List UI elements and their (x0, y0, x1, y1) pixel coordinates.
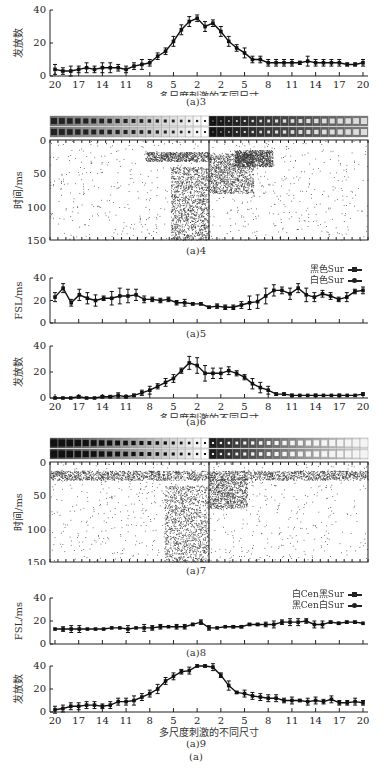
svg-text:40: 40 (33, 272, 46, 283)
svg-text:2: 2 (218, 401, 224, 412)
raster-a7-caption: (a)7 (0, 565, 392, 576)
svg-text:5: 5 (241, 79, 247, 90)
svg-text:20: 20 (33, 295, 46, 306)
svg-text:11: 11 (120, 79, 133, 90)
svg-text:20: 20 (49, 401, 62, 412)
svg-text:40: 40 (33, 592, 46, 603)
svg-text:8: 8 (265, 401, 271, 412)
svg-text:0: 0 (40, 317, 46, 328)
svg-text:14: 14 (96, 715, 109, 726)
legend-circle-marker-icon (348, 605, 362, 607)
svg-text:150: 150 (27, 235, 46, 245)
svg-text:20: 20 (33, 37, 46, 48)
svg-text:0: 0 (40, 70, 46, 81)
chart-a6-svg: 02040发放数2017141185225811141720多尺度刺激的不同尺寸 (0, 340, 392, 418)
svg-text:100: 100 (27, 202, 46, 213)
svg-text:40: 40 (33, 340, 46, 351)
chart-a5-legend: 黑色Sur 白色Sur (310, 264, 362, 286)
svg-text:14: 14 (309, 715, 322, 726)
svg-text:0: 0 (40, 457, 46, 468)
chart-a9-caption: (a)9 (0, 738, 392, 749)
svg-text:11: 11 (286, 715, 299, 726)
svg-text:11: 11 (286, 79, 299, 90)
chart-a3-caption: (a)3 (0, 96, 392, 107)
svg-text:2: 2 (194, 401, 200, 412)
legend-label-white-sur: 白色Sur (310, 275, 344, 286)
chart-a6-caption: (a)6 (0, 416, 392, 427)
svg-text:发放数: 发放数 (12, 28, 24, 58)
legend-label-black-sur: 黑色Sur (310, 264, 344, 275)
svg-text:17: 17 (333, 401, 346, 412)
svg-text:11: 11 (120, 401, 133, 412)
svg-text:100: 100 (27, 524, 46, 535)
legend-label-white-cen-black-sur: 白Cen黑Sur (292, 589, 344, 600)
svg-text:11: 11 (120, 715, 133, 726)
svg-text:50: 50 (33, 168, 46, 179)
svg-text:5: 5 (170, 715, 176, 726)
raster-a4-caption: (a)4 (0, 245, 392, 256)
svg-text:14: 14 (309, 79, 322, 90)
raster-a7: 050100150时间/ms (a)7 (0, 432, 392, 577)
legend-circle-marker-icon (348, 280, 362, 282)
svg-text:20: 20 (357, 401, 370, 412)
legend-square-marker-icon (348, 269, 362, 271)
svg-text:8: 8 (265, 715, 271, 726)
svg-text:20: 20 (357, 79, 370, 90)
chart-a9: 02040发放数2017141185225811141720多尺度刺激的不同尺寸… (0, 660, 392, 778)
svg-text:0: 0 (40, 392, 46, 403)
svg-text:发放数: 发放数 (12, 357, 24, 387)
svg-text:8: 8 (147, 401, 153, 412)
svg-text:14: 14 (96, 401, 109, 412)
legend-label-black-cen-white-sur: 黑Cen白Sur (292, 600, 344, 611)
svg-text:11: 11 (286, 401, 299, 412)
svg-text:2: 2 (194, 79, 200, 90)
raster-a4: 050100150时间/ms (a)4 (0, 110, 392, 255)
svg-text:17: 17 (72, 715, 85, 726)
svg-text:FSL/ms: FSL/ms (13, 602, 24, 640)
svg-text:0: 0 (40, 135, 46, 146)
svg-text:20: 20 (49, 715, 62, 726)
chart-a9-svg: 02040发放数2017141185225811141720多尺度刺激的不同尺寸 (0, 660, 392, 740)
svg-text:17: 17 (333, 715, 346, 726)
svg-text:40: 40 (33, 4, 46, 15)
svg-text:5: 5 (170, 401, 176, 412)
raster-a4-svg: 050100150时间/ms (0, 110, 392, 245)
chart-a8-legend: 白Cen黑Sur 黑Cen白Sur (292, 589, 362, 611)
svg-text:150: 150 (27, 557, 46, 565)
svg-text:2: 2 (218, 79, 224, 90)
figure-caption: (a) (0, 751, 392, 762)
svg-text:FSL/ms: FSL/ms (13, 281, 24, 319)
svg-text:多尺度刺激的不同尺寸: 多尺度刺激的不同尺寸 (159, 726, 259, 738)
svg-text:5: 5 (241, 715, 247, 726)
raster-a7-svg: 050100150时间/ms (0, 432, 392, 565)
chart-a3-svg: 02040发放数2017141185225811141720多尺度刺激的不同尺寸 (0, 0, 392, 96)
svg-text:20: 20 (33, 366, 46, 377)
svg-text:时间/ms: 时间/ms (12, 493, 24, 531)
svg-text:14: 14 (96, 79, 109, 90)
svg-text:8: 8 (265, 79, 271, 90)
svg-text:2: 2 (218, 715, 224, 726)
svg-text:20: 20 (33, 683, 46, 694)
chart-a5: 02040FSL/ms 黑色Sur 白色Sur (a)5 (0, 262, 392, 340)
legend-square-marker-icon (348, 594, 362, 596)
chart-a8-caption: (a)8 (0, 647, 392, 658)
svg-text:发放数: 发放数 (12, 674, 24, 704)
svg-text:8: 8 (147, 79, 153, 90)
svg-text:8: 8 (147, 715, 153, 726)
svg-text:17: 17 (72, 79, 85, 90)
svg-text:0: 0 (40, 706, 46, 717)
chart-a5-caption: (a)5 (0, 328, 392, 339)
chart-a3: 02040发放数2017141185225811141720多尺度刺激的不同尺寸… (0, 0, 392, 110)
svg-text:50: 50 (33, 490, 46, 501)
svg-text:时间/ms: 时间/ms (12, 171, 24, 209)
svg-text:14: 14 (309, 401, 322, 412)
svg-text:5: 5 (170, 79, 176, 90)
chart-a6: 02040发放数2017141185225811141720多尺度刺激的不同尺寸… (0, 340, 392, 430)
svg-text:17: 17 (333, 79, 346, 90)
svg-text:20: 20 (49, 79, 62, 90)
svg-text:5: 5 (241, 401, 247, 412)
svg-text:2: 2 (194, 715, 200, 726)
chart-a8: 02040FSL/ms 白Cen黑Sur 黑Cen白Sur (a)8 (0, 590, 392, 660)
svg-text:17: 17 (72, 401, 85, 412)
svg-text:40: 40 (33, 660, 46, 671)
